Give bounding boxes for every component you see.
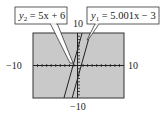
x-max-label: 10: [128, 60, 138, 71]
y1-equation: = 5.001x − 3: [99, 10, 155, 21]
y-min-label: −10: [70, 101, 86, 112]
graph-figure: −10 10 10 −10 y2 = 5x + 6 y1 = 5.001x − …: [0, 0, 163, 115]
x-min-label: −10: [6, 60, 22, 71]
y2-equation: = 5x + 6: [27, 10, 65, 21]
y-max-label: 10: [73, 18, 83, 29]
